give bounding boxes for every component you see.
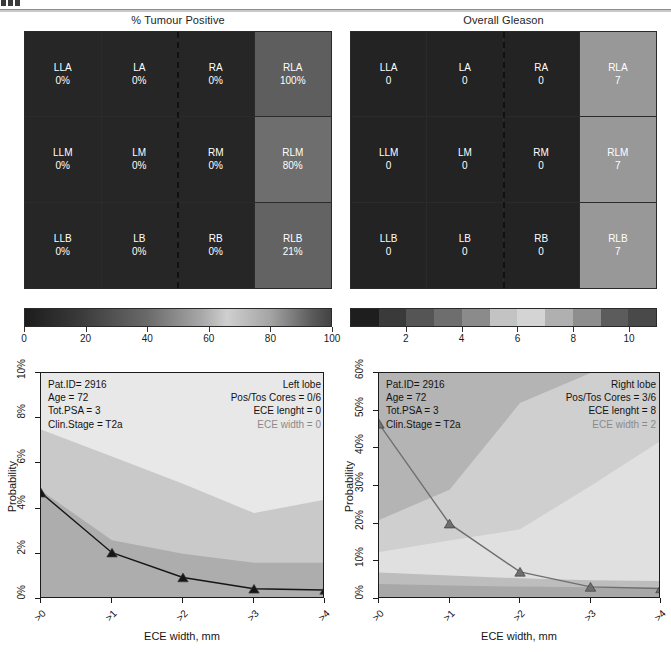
heatmap-cell-rm[interactable]: RM0 [504, 117, 580, 202]
heatmap-cell-label: RLB [283, 232, 302, 245]
y-axis-tick-label: 50% [354, 397, 365, 417]
y-axis-tick-mark [35, 462, 40, 463]
heatmap-cell-label: LM [458, 146, 472, 159]
y-axis-tick-mark [35, 372, 40, 373]
heatmap-cell-la[interactable]: LA0% [102, 32, 179, 117]
heatmap-title: % Tumour Positive [24, 14, 332, 26]
x-axis-tick-label: >3 [582, 608, 598, 624]
heatmap-cell-label: LB [459, 232, 471, 245]
patient-info-line: Clin.Stage = T2a [386, 418, 461, 431]
heatmap-cell-label: LLM [53, 146, 72, 159]
patient-info-line: Pat.ID= 2916 [386, 378, 461, 391]
y-axis-tick-mark [373, 485, 378, 486]
x-axis-tick-label: >2 [174, 608, 190, 624]
y-axis-tick-label: 2% [16, 540, 27, 554]
patient-info-line: Pos/Tos Cores = 0/6 [231, 391, 321, 404]
heatmap-cell-value: 0 [538, 245, 544, 258]
heatmap-cell-value: 0% [132, 245, 146, 258]
colorbar-tick-label: 6 [515, 333, 521, 344]
heatmap-cell-lm[interactable]: LM0 [427, 117, 503, 202]
page-edge-artifact [0, 0, 22, 7]
heatmap-grid[interactable]: LLA0%LA0%RA0%RLA100%LLM0%LM0%RM0%RLM80%L… [24, 31, 332, 289]
x-axis-tick-label: >4 [652, 608, 668, 624]
patient-info-left: Pat.ID= 2916Age = 72Tot.PSA = 3Clin.Stag… [386, 378, 461, 431]
artifact-block [8, 0, 13, 6]
x-axis-tick-label: >4 [316, 608, 332, 624]
heatmap-cell-rla[interactable]: RLA100% [255, 32, 332, 117]
patient-info-line: Tot.PSA = 3 [48, 404, 123, 417]
heatmap-cell-lm[interactable]: LM0% [102, 117, 179, 202]
heatmap-cell-value: 0% [132, 74, 146, 87]
colorbar-gradient [24, 308, 332, 327]
x-axis-label: ECE width, mm [378, 630, 660, 642]
heatmap-cell-lla[interactable]: LLA0% [25, 32, 102, 117]
y-axis-tick-mark [373, 523, 378, 524]
heatmap-cell-label: LB [133, 232, 145, 245]
patient-info-line: Age = 72 [386, 391, 461, 404]
y-axis-tick-label: 6% [16, 449, 27, 463]
heatmap-cell-la[interactable]: LA0 [427, 32, 503, 117]
heatmap-cell-label: LLA [54, 61, 72, 74]
patient-info-right: Left lobePos/Tos Cores = 0/6ECE lenght =… [231, 378, 321, 431]
x-axis-tick-mark [40, 598, 41, 603]
colorbar-overall-gleason: 246810 [350, 308, 657, 347]
heatmap-cell-rm[interactable]: RM0% [178, 117, 255, 202]
heatmap-cell-rlb[interactable]: RLB7 [580, 203, 656, 288]
y-axis-tick-label: 0% [16, 585, 27, 599]
colorbar-tick-label: 10 [624, 333, 635, 344]
colorbar-tick-label: 80 [265, 333, 276, 344]
x-axis-tick-label: >0 [370, 608, 386, 624]
heatmap-cell-value: 7 [615, 159, 621, 172]
artifact-block [15, 0, 20, 6]
heatmap-grid[interactable]: LLA0LA0RA0RLA7LLM0LM0RM0RLM7LLB0LB0RB0RL… [350, 31, 657, 289]
y-axis-tick-label: 8% [16, 404, 27, 418]
heatmap-cell-lla[interactable]: LLA0 [351, 32, 427, 117]
heatmap-cell-rb[interactable]: RB0 [504, 203, 580, 288]
probability-chart-right-lobe: Probability Pat.ID= 2916Age = 72Tot.PSA … [335, 366, 671, 652]
x-axis-tick-label: >0 [32, 608, 48, 624]
heatmap-cell-value: 0 [538, 74, 544, 87]
heatmap-cell-rlb[interactable]: RLB21% [255, 203, 332, 288]
heatmap-cell-value: 0% [56, 74, 70, 87]
x-axis-tick-mark [519, 598, 520, 603]
heatmap-cell-value: 0 [538, 159, 544, 172]
colorbar-tick [147, 327, 148, 332]
heatmap-cell-label: LLB [380, 232, 398, 245]
heatmap-cell-rla[interactable]: RLA7 [580, 32, 656, 117]
heatmap-cell-ra[interactable]: RA0% [178, 32, 255, 117]
heatmap-cell-value: 0 [386, 159, 392, 172]
heatmap-cell-rb[interactable]: RB0% [178, 203, 255, 288]
heatmap-cell-label: RA [534, 61, 548, 74]
heatmap-cell-label: RLM [607, 146, 628, 159]
heatmap-cell-llm[interactable]: LLM0% [25, 117, 102, 202]
colorbar-tumour-positive: 020406080100 [24, 308, 332, 347]
heatmap-cell-ra[interactable]: RA0 [504, 32, 580, 117]
patient-info-line: Pos/Tos Cores = 3/6 [566, 391, 656, 404]
heatmap-cell-llb[interactable]: LLB0% [25, 203, 102, 288]
heatmap-cell-rlm[interactable]: RLM7 [580, 117, 656, 202]
heatmap-cell-llm[interactable]: LLM0 [351, 117, 427, 202]
x-axis-tick-mark [182, 598, 183, 603]
y-axis-tick-mark [373, 447, 378, 448]
patient-info-line: ECE lenght = 8 [566, 404, 656, 417]
colorbar-tick [462, 327, 463, 332]
heatmap-cell-value: 7 [615, 245, 621, 258]
heatmap-cell-label: LA [133, 61, 145, 74]
y-axis-tick-mark [373, 410, 378, 411]
heatmap-cell-label: RLM [282, 146, 303, 159]
heatmap-cell-label: RB [209, 232, 223, 245]
heatmap-cell-value: 0% [56, 245, 70, 258]
colorbar-tick-label: 0 [21, 333, 27, 344]
heatmap-cell-lb[interactable]: LB0 [427, 203, 503, 288]
heatmap-cell-value: 0 [462, 245, 468, 258]
colorbar-tick-label: 4 [459, 333, 465, 344]
heatmap-cell-label: RB [534, 232, 548, 245]
heatmap-cell-label: RLA [608, 61, 627, 74]
heatmap-cell-llb[interactable]: LLB0 [351, 203, 427, 288]
heatmap-cell-rlm[interactable]: RLM80% [255, 117, 332, 202]
x-axis-tick-mark [324, 598, 325, 603]
colorbar-tick [517, 327, 518, 332]
heatmap-cell-lb[interactable]: LB0% [102, 203, 179, 288]
ece-width-readout: ECE width = 2 [566, 418, 656, 431]
x-axis-tick-mark [378, 598, 379, 603]
